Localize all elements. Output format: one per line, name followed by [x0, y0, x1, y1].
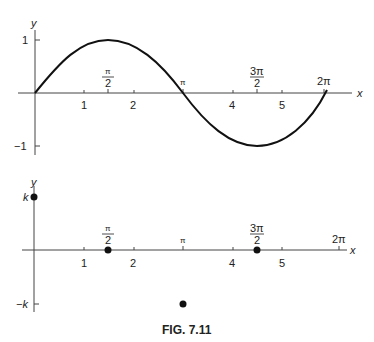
top-y-tick-neg1: −1 [14, 140, 27, 152]
bottom-two-pi: 2π [332, 233, 346, 245]
bottom-half-pi-den: 2 [105, 234, 111, 246]
top-y-label: y [30, 17, 38, 29]
top-pi: π [180, 78, 186, 87]
bottom-x-tick-1: 1 [81, 257, 87, 269]
top-plot: y x 1 −1 1 2 4 5 π 2 π 3π 2 2π [14, 17, 363, 155]
top-x-tick-1: 1 [81, 99, 87, 111]
bottom-x-label: x [349, 244, 356, 256]
bottom-y-tick-neg-k: −k [16, 298, 28, 310]
top-half-pi-den: 2 [105, 77, 111, 89]
bottom-x-tick-2: 2 [130, 257, 136, 269]
bottom-y-label: y [30, 176, 38, 188]
point-neg-k [180, 301, 187, 308]
top-three-half-pi-num: 3π [250, 65, 264, 77]
top-half-pi-num: π [105, 67, 111, 76]
point-half-pi [105, 247, 112, 254]
bottom-half-pi-num: π [105, 224, 111, 233]
bottom-three-half-pi-den: 2 [254, 234, 260, 246]
top-x-tick-2: 2 [130, 99, 136, 111]
top-x-tick-5: 5 [279, 99, 285, 111]
figure-canvas: y x 1 −1 1 2 4 5 π 2 π 3π 2 2π y x [0, 0, 374, 342]
bottom-x-tick-4: 4 [229, 257, 235, 269]
bottom-y-tick-k: k [23, 191, 29, 203]
figure-caption: FIG. 7.11 [162, 323, 212, 337]
top-x-label: x [356, 87, 363, 99]
top-three-half-pi-den: 2 [254, 77, 260, 89]
bottom-three-half-pi-num: 3π [250, 222, 264, 234]
bottom-pi: π [180, 236, 186, 245]
top-two-pi: 2π [317, 75, 331, 87]
top-x-tick-4: 4 [229, 99, 235, 111]
bottom-x-tick-5: 5 [279, 257, 285, 269]
top-y-tick-1: 1 [22, 34, 28, 46]
point-three-half-pi [254, 247, 261, 254]
point-k [31, 194, 38, 201]
bottom-plot: y x k −k 1 2 4 5 π 2 π 3π 2 2π [16, 176, 356, 312]
